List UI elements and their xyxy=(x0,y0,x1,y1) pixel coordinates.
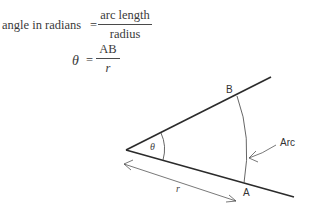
arc-ab xyxy=(237,96,247,183)
label-arc: Arc xyxy=(280,137,295,148)
radian-diagram: B A θ Arc r xyxy=(0,0,319,212)
arrowhead-left-icon xyxy=(124,160,133,170)
ray-ob xyxy=(126,77,271,150)
ray-oa xyxy=(126,150,294,197)
angle-arc xyxy=(161,133,165,160)
label-r: r xyxy=(176,183,180,194)
radius-arrow xyxy=(124,164,236,201)
label-b: B xyxy=(226,84,233,95)
arc-pointer-icon xyxy=(249,145,276,158)
label-a: A xyxy=(243,187,250,198)
label-theta: θ xyxy=(150,141,155,152)
